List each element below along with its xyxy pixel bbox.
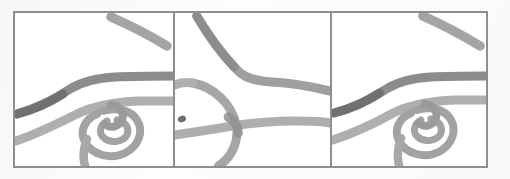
dot-mark [177, 115, 187, 124]
panel-3-drawing [332, 13, 486, 166]
diagonal-stroke-top-right [423, 16, 480, 46]
loop-knot-outer-ring [397, 108, 454, 155]
upper-curve-dark-segment [334, 93, 379, 113]
large-left-arc-upper-tail [175, 83, 193, 85]
panel-3[interactable] [330, 13, 486, 166]
diagonal-stroke-top-right [111, 17, 167, 46]
upper-curve-dark-segment [17, 94, 63, 114]
loop-knot-outer-ring [83, 109, 140, 156]
descending-stroke-dark-segment [197, 16, 235, 67]
figure-description: Scanned grayscale figure: three framed p… [0, 0, 1, 1]
figure-title: Three-panel line sketch comparison [0, 0, 1, 1]
knot-tail-descending [398, 138, 401, 166]
knot-tail-descending [84, 139, 87, 166]
panel-2[interactable] [173, 13, 330, 166]
panel-1-drawing [15, 13, 173, 166]
panel-1[interactable] [15, 13, 173, 166]
lower-horizontal-curve [175, 121, 330, 135]
figure-root: Three-panel line sketch comparison Scann… [0, 0, 510, 179]
figure-frame [13, 11, 488, 168]
panel-2-drawing [175, 13, 330, 166]
